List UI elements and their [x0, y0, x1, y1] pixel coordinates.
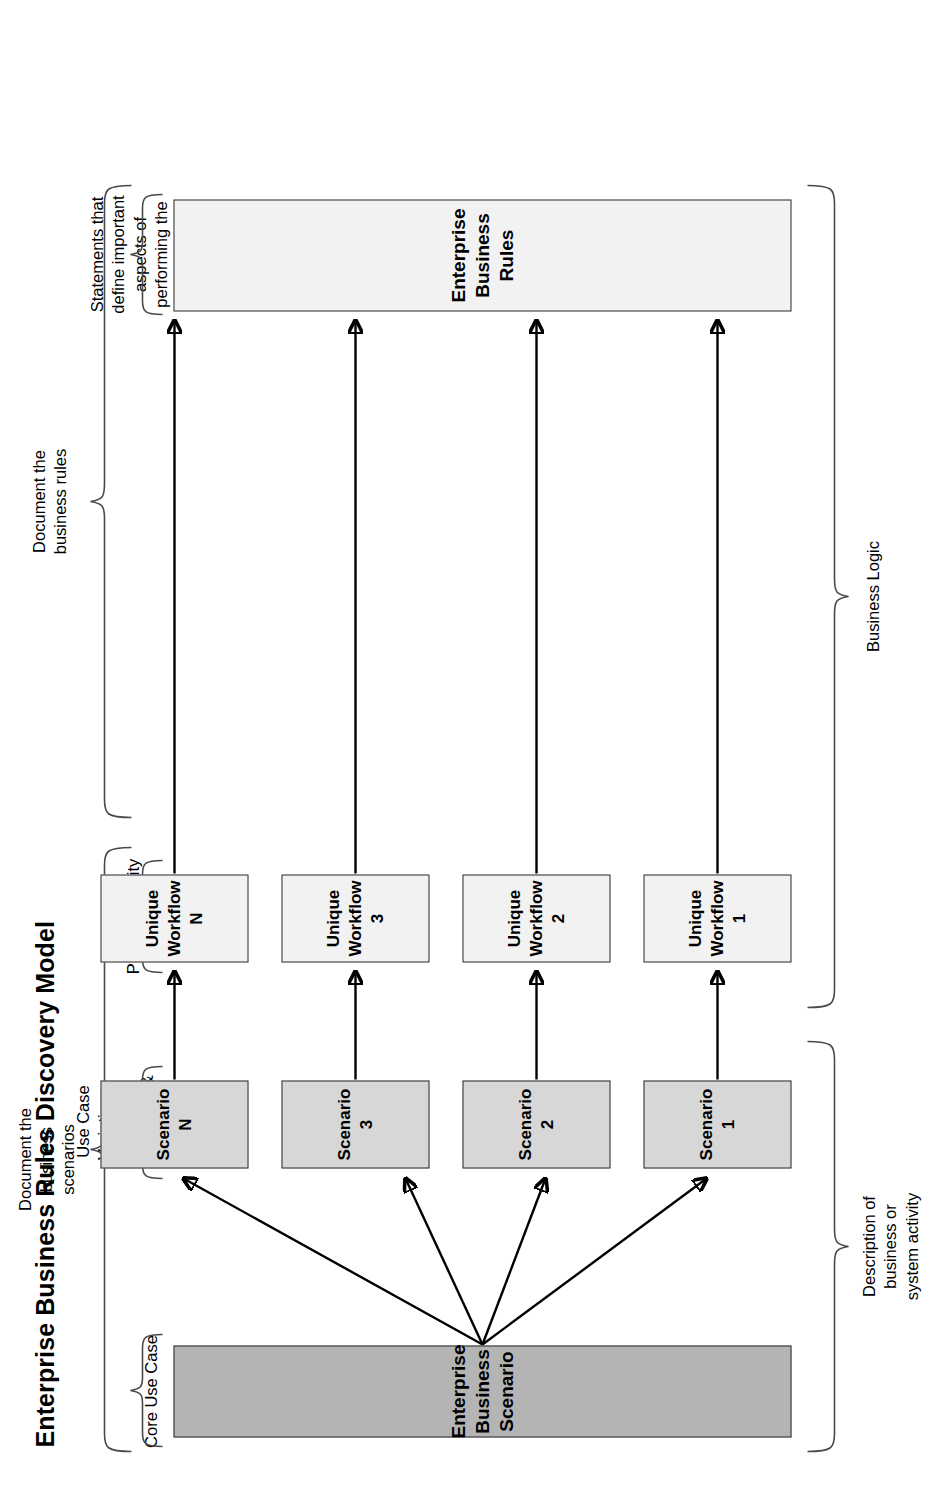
box-scenario-2[interactable]: Scenario 2 — [462, 1080, 610, 1168]
annotation-document-business-scenarios: Document the business scenarios — [14, 1059, 78, 1259]
box-unique-workflow-2[interactable]: Unique Workflow 2 — [462, 874, 610, 962]
scenario-to-workflow-arrows — [174, 971, 717, 1079]
brace-statements-business — [128, 191, 164, 317]
brace-bottom-business-logic — [806, 181, 850, 1011]
workflow-to-rules-arrows — [174, 320, 717, 873]
page-root: Enterprise Business Rules Discovery Mode… — [0, 0, 931, 1511]
box-scenario-1[interactable]: Scenario 1 — [643, 1080, 791, 1168]
box-unique-workflow-3[interactable]: Unique Workflow 3 — [281, 874, 429, 962]
box-scenario-n[interactable]: Scenario N — [100, 1080, 248, 1168]
box-scenario-3[interactable]: Scenario 3 — [281, 1080, 429, 1168]
box-unique-workflow-1[interactable]: Unique Workflow 1 — [643, 874, 791, 962]
box-enterprise-business-rules[interactable]: Enterprise Business Rules — [173, 199, 791, 311]
diagram-canvas: Enterprise Business Rules Discovery Mode… — [0, 0, 931, 1511]
box-unique-workflow-n[interactable]: Unique Workflow N — [100, 874, 248, 962]
box-enterprise-business-scenario[interactable]: Enterprise Business Scenario — [173, 1345, 791, 1437]
brace-bottom-description — [806, 1037, 850, 1455]
annotation-business-logic: Business Logic — [862, 501, 883, 691]
brace-core-use-case — [128, 1331, 164, 1449]
annotation-description-of-activity: Description of business or system activi… — [858, 1151, 922, 1341]
annotation-document-business-rules: Document the business rules — [28, 406, 71, 596]
fanout-arrows — [183, 1178, 706, 1344]
